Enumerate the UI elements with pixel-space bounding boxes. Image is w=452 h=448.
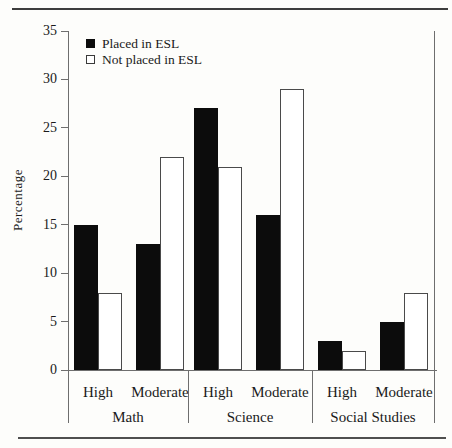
bar-not-placed-esl-science-moderate (280, 89, 304, 370)
x-category-label: High (83, 384, 113, 401)
plot-right-boundary-line (434, 31, 435, 370)
y-tick-mark (61, 321, 68, 322)
y-tick-label: 20 (27, 169, 57, 183)
y-tick-label: 25 (27, 121, 57, 135)
x-category-label: Moderate (375, 384, 432, 401)
x-group-label: Math (112, 409, 144, 426)
bar-placed-esl-science-moderate (256, 215, 280, 370)
bar-placed-esl-math-moderate (136, 244, 160, 370)
bar-chart-figure: Percentage Placed in ESL Not placed in E… (0, 0, 452, 448)
y-tick-mark (61, 370, 68, 371)
bottom-rule (18, 437, 446, 439)
y-tick-mark (61, 224, 68, 225)
y-tick-label: 5 (27, 315, 57, 329)
x-group-divider-line (434, 370, 435, 423)
y-tick-label: 15 (27, 218, 57, 232)
x-axis-line (68, 370, 437, 371)
x-category-label: High (327, 384, 357, 401)
open-square-icon (86, 55, 95, 64)
y-tick-label: 35 (27, 24, 57, 38)
bar-placed-esl-social-studies-moderate (380, 322, 404, 370)
bar-placed-esl-social-studies-high (318, 341, 342, 370)
legend: Placed in ESL Not placed in ESL (86, 36, 202, 68)
legend-item-placed-in-esl: Placed in ESL (86, 36, 202, 51)
y-tick-label: 10 (27, 266, 57, 280)
y-axis-line (68, 31, 69, 370)
filled-square-icon (86, 39, 95, 48)
x-category-label: High (203, 384, 233, 401)
y-tick-mark (61, 31, 68, 32)
legend-label-placed: Placed in ESL (102, 36, 179, 51)
legend-label-not-placed: Not placed in ESL (102, 52, 202, 67)
bar-placed-esl-science-high (194, 108, 218, 370)
x-group-divider-line (312, 370, 313, 423)
bar-not-placed-esl-math-moderate (160, 157, 184, 370)
top-rule (12, 8, 448, 10)
bar-not-placed-esl-math-high (98, 293, 122, 370)
y-tick-mark (61, 127, 68, 128)
x-category-label: Moderate (131, 384, 188, 401)
bar-not-placed-esl-social-studies-high (342, 351, 366, 370)
y-tick-label: 30 (27, 72, 57, 86)
legend-item-not-placed-in-esl: Not placed in ESL (86, 52, 202, 67)
y-tick-mark (61, 79, 68, 80)
y-tick-mark (61, 273, 68, 274)
y-axis-title: Percentage (10, 169, 26, 231)
y-tick-mark (61, 176, 68, 177)
bar-not-placed-esl-science-high (218, 167, 242, 370)
x-group-divider-line (188, 370, 189, 423)
x-group-divider-line (68, 370, 69, 423)
x-group-label: Social Studies (330, 409, 415, 426)
y-tick-label: 0 (27, 363, 57, 377)
bar-not-placed-esl-social-studies-moderate (404, 293, 428, 370)
x-group-label: Science (227, 409, 274, 426)
x-category-label: Moderate (251, 384, 308, 401)
bar-placed-esl-math-high (74, 225, 98, 370)
